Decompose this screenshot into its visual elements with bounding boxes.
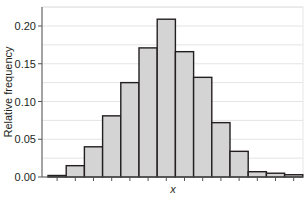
histogram-bar [212,123,230,177]
bars [48,19,303,177]
histogram-bar [248,172,266,177]
y-tick-label: 0.00 [15,171,36,183]
histogram-bar [103,116,121,177]
y-ticks: 0.000.050.100.150.20 [15,20,42,183]
y-tick-label: 0.05 [15,133,36,145]
histogram-chart: 0.000.050.100.150.20 Relative frequency … [0,0,306,199]
histogram-bar [230,151,248,177]
y-axis-title: Relative frequency [2,46,14,138]
y-tick-label: 0.20 [15,20,36,32]
histogram-bar [139,48,157,177]
x-axis-title: x [169,183,176,195]
histogram-bar [266,173,284,177]
y-tick-label: 0.15 [15,58,36,70]
y-tick-label: 0.10 [15,96,36,108]
histogram-bar [175,52,193,177]
histogram-bar [84,147,102,177]
histogram-bar [121,83,139,177]
histogram-bar [194,77,212,177]
histogram-bar [66,166,84,177]
histogram-bar [157,19,175,177]
